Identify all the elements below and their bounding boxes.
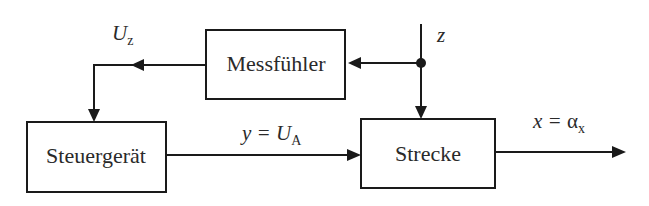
output-signal-label: x = αx	[532, 109, 585, 136]
plant-label: Strecke	[395, 141, 461, 166]
arrow-left-icon	[131, 59, 144, 71]
diagram-svg: Messfühler Steuergerät Strecke Uz z y = …	[0, 0, 649, 206]
junction-dot	[416, 58, 426, 68]
arrow-down-icon	[88, 109, 100, 122]
arrow-down-icon	[415, 106, 427, 119]
controller-label: Steuergerät	[46, 143, 146, 168]
arrow-right-icon	[612, 146, 626, 158]
sensor-label: Messfühler	[227, 51, 327, 76]
disturbance-signal-label: z	[436, 23, 445, 47]
sensor-output-signal-label: Uz	[112, 21, 133, 48]
arrow-right-icon	[347, 149, 361, 161]
control-signal-label: y = UA	[240, 121, 302, 148]
arrow-left-icon	[348, 57, 361, 69]
block-diagram: Messfühler Steuergerät Strecke Uz z y = …	[0, 0, 649, 206]
